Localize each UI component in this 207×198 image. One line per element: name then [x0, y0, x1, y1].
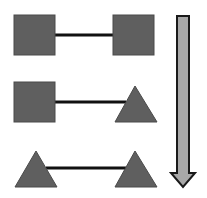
- square-shape-1-right: [113, 15, 154, 55]
- row-2: [14, 82, 157, 122]
- square-shape-1-left: [14, 15, 55, 55]
- row-1: [14, 15, 154, 55]
- down-arrow-icon: [171, 16, 195, 187]
- square-shape-2-left: [14, 82, 55, 122]
- triangle-shape-2-right: [115, 86, 157, 122]
- row-3: [15, 151, 157, 187]
- diagram-canvas: [0, 0, 207, 198]
